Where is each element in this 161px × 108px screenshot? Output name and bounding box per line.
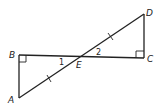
tick-mark-ed	[108, 33, 113, 40]
right-angle-mark-c	[136, 51, 144, 58]
label-angle-2: 2	[96, 48, 101, 57]
label-b: B	[9, 50, 15, 60]
label-e: E	[76, 60, 82, 70]
label-c: C	[147, 54, 154, 64]
right-angle-mark-b	[19, 55, 26, 62]
geometry-diagram: B C D A E 1 2	[0, 0, 161, 108]
label-a: A	[7, 95, 14, 105]
label-d: D	[146, 8, 153, 18]
label-angle-1: 1	[59, 58, 64, 67]
